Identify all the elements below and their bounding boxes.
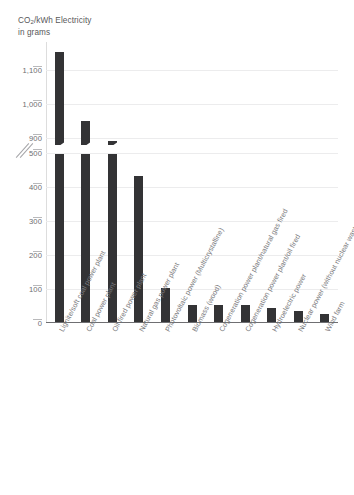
bar-upper-segment <box>81 121 90 145</box>
y-axis: 01002003004005009001,0001,100 <box>8 42 42 323</box>
chart-title: CO2/kWh Electricity in grams <box>18 16 91 38</box>
chart-root: CO2/kWh Electricity in grams 01002003004… <box>0 0 354 495</box>
plot-area <box>46 42 338 323</box>
y-tick-label: 300 <box>12 217 42 226</box>
bar <box>294 311 303 322</box>
bar <box>267 308 276 322</box>
y-tick-label: 900 <box>12 134 42 143</box>
y-tick-label: 1,100 <box>12 66 42 75</box>
bar <box>241 305 250 322</box>
y-tick-label: 200 <box>12 251 42 260</box>
bar <box>188 305 197 322</box>
y-tick-label: 100 <box>12 285 42 294</box>
x-axis-line <box>46 322 338 323</box>
chart-title-rest: /kWh Electricity <box>34 16 92 25</box>
gridline <box>46 70 338 71</box>
chart-title-line2: in grams <box>18 28 91 39</box>
y-axis-line <box>46 42 47 323</box>
chart-title-line1: CO2/kWh Electricity <box>18 16 91 28</box>
y-tick-label: 0 <box>12 319 42 328</box>
bar <box>55 154 64 322</box>
bar <box>214 305 223 322</box>
chart-title-co: CO <box>18 16 30 25</box>
bar-upper-segment <box>55 52 64 145</box>
bar <box>108 154 117 322</box>
y-tick-label: 1,000 <box>12 100 42 109</box>
bar <box>81 154 90 322</box>
gridline <box>46 104 338 105</box>
bar <box>134 176 143 322</box>
bar <box>161 288 170 322</box>
y-tick-label: 400 <box>12 183 42 192</box>
bar <box>320 314 329 322</box>
